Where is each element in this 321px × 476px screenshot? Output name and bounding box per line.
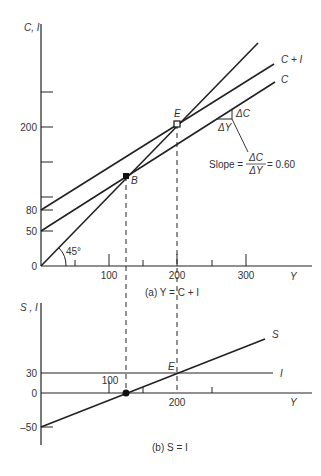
x-axis-label-a: Y <box>290 271 298 282</box>
slope-value: = 0.60 <box>267 159 296 170</box>
caption-b: (b) S = I <box>152 442 188 453</box>
x-tick-200-b: 200 <box>169 397 186 408</box>
line-s <box>41 339 265 427</box>
delta-c-label: ΔC <box>235 108 251 119</box>
delta-y-label: ΔY <box>217 122 233 133</box>
point-b-marker <box>123 173 129 179</box>
y-tick-0: 0 <box>31 261 37 272</box>
angle-label: 45° <box>66 246 81 257</box>
c-plus-i-label: C + I <box>281 54 303 65</box>
y-axis-label-b: S , I <box>20 302 38 313</box>
x-tick-200: 200 <box>169 270 186 281</box>
break-even-point <box>123 390 130 397</box>
y-tick-30: 30 <box>26 368 38 379</box>
i-label: I <box>280 368 283 379</box>
point-e-label: E <box>174 108 181 119</box>
x-tick-100-b: 100 <box>102 375 119 386</box>
slope-prefix: Slope = <box>209 159 243 170</box>
y-tick-0-b: 0 <box>31 388 37 399</box>
line-c-plus-i <box>41 64 274 210</box>
y-axis-label-a: C, I <box>24 22 40 33</box>
y-tick-80: 80 <box>26 205 38 216</box>
slope-denominator: ΔY <box>248 165 264 176</box>
point-b-label: B <box>131 175 138 186</box>
y-tick-minus-50: –50 <box>20 422 37 433</box>
x-axis-label-b: Y <box>290 397 298 408</box>
caption-a: (a) Y = C + I <box>145 287 199 298</box>
y-tick-200: 200 <box>20 122 37 133</box>
line-45-degree <box>41 43 258 266</box>
income-determination-diagram: C, I 200 80 50 0 100 200 300 Y 45° B E C… <box>0 0 321 476</box>
line-c <box>41 82 275 231</box>
point-e-label-b: E <box>168 361 175 372</box>
x-tick-100: 100 <box>101 270 118 281</box>
slope-numerator: ΔC <box>248 152 264 163</box>
c-label: C <box>281 74 289 85</box>
y-tick-50: 50 <box>26 226 38 237</box>
s-label: S <box>272 329 279 340</box>
point-e-marker <box>174 121 180 127</box>
x-tick-300: 300 <box>238 270 255 281</box>
slope-pointer <box>232 119 248 152</box>
angle-arc <box>59 248 66 266</box>
